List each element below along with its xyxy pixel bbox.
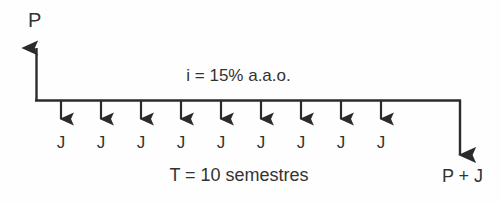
installment-label: J (373, 133, 389, 152)
installment-label: J (253, 133, 269, 152)
cash-flow-diagram: P i = 15% a.a.o. T = 10 semestres P + J … (0, 0, 501, 204)
installment-label: J (213, 133, 229, 152)
installment-label: J (173, 133, 189, 152)
principal-label: P (28, 10, 41, 30)
installment-label: J (133, 133, 149, 152)
installment-arrow-group (61, 101, 381, 119)
installment-label: J (53, 133, 69, 152)
final-amount-label: P + J (404, 166, 501, 187)
installment-label: J (93, 133, 109, 152)
installment-label: J (333, 133, 349, 152)
interest-rate-label: i = 15% a.a.o. (0, 66, 477, 86)
installment-label: J (293, 133, 309, 152)
